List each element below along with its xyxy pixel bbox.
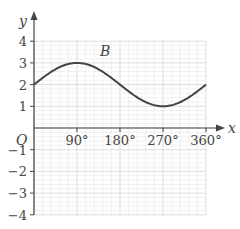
x-axis-label: x (228, 120, 236, 136)
x-tick-label: 90° (65, 133, 88, 148)
y-tick-label: 4 (19, 34, 27, 49)
y-tick-label: 1 (19, 99, 27, 114)
x-axis-arrow-icon (216, 125, 225, 132)
y-tick-label: 2 (19, 78, 27, 93)
curve-label: B (99, 43, 110, 59)
origin-label: O (16, 132, 28, 148)
x-tick-label: 180° (104, 133, 135, 148)
sine-graph: 4321−1−2−3−490°180°270°360°OxyB (0, 0, 240, 229)
y-tick-label: −3 (8, 186, 27, 201)
x-tick-label: 360° (190, 133, 221, 148)
y-axis-arrow-icon (31, 11, 38, 20)
y-axis-label: y (18, 13, 28, 29)
x-tick-label: 270° (147, 133, 178, 148)
y-tick-label: 3 (19, 56, 27, 71)
y-tick-label: −4 (8, 208, 27, 223)
y-tick-label: −2 (8, 164, 27, 179)
